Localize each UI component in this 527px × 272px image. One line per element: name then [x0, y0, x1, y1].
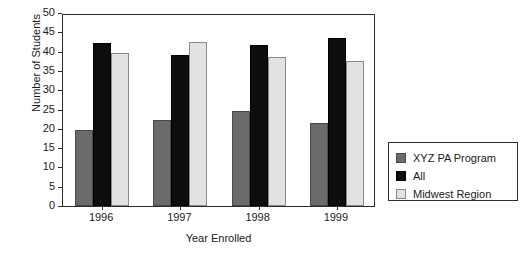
x-tick-mark: [337, 206, 338, 210]
y-tick-mark: [58, 206, 62, 207]
y-tick-label: 40: [43, 45, 55, 57]
y-tick-mark: [58, 148, 62, 149]
y-tick-label: 5: [49, 180, 55, 192]
bar-1996-series-2: [111, 53, 129, 206]
y-tick-label: 30: [43, 83, 55, 95]
bar-1999-series-2: [346, 61, 364, 206]
y-tick-mark: [58, 129, 62, 130]
y-tick-label: 25: [43, 103, 55, 115]
x-axis-title: Year Enrolled: [62, 232, 375, 244]
legend-label-all: All: [413, 170, 425, 182]
x-tick-label: 1999: [306, 211, 366, 223]
chart-legend: XYZ PA Program All Midwest Region: [388, 142, 518, 201]
x-tick-mark: [102, 206, 103, 210]
legend-item-midwest-region: Midwest Region: [396, 185, 517, 202]
y-tick-label: 35: [43, 64, 55, 76]
y-tick-label: 0: [49, 199, 55, 211]
y-tick-mark: [58, 167, 62, 168]
y-tick-mark: [58, 52, 62, 53]
legend-label-xyz-pa-program: XYZ PA Program: [413, 152, 496, 164]
bar-1997-series-1: [171, 55, 189, 206]
y-tick-label: 10: [43, 160, 55, 172]
bar-1996-series-0: [75, 130, 93, 206]
legend-item-all: All: [396, 167, 517, 184]
bar-chart: Number of Students 05101520253035404550 …: [0, 0, 527, 272]
legend-swatch-icon-all: [396, 171, 406, 181]
y-tick-mark: [58, 13, 62, 14]
bar-1998-series-1: [250, 45, 268, 206]
bar-1999-series-1: [328, 38, 346, 206]
plot-inner: [63, 15, 374, 206]
bar-1997-series-2: [189, 42, 207, 206]
y-tick-mark: [58, 90, 62, 91]
y-axis-title: Number of Students: [30, 0, 42, 143]
y-tick-label: 45: [43, 25, 55, 37]
x-tick-label: 1997: [149, 211, 209, 223]
y-tick-label: 15: [43, 141, 55, 153]
y-tick-label: 20: [43, 122, 55, 134]
legend-swatch-icon-midwest-region: [396, 189, 406, 199]
y-tick-mark: [58, 71, 62, 72]
x-tick-mark: [180, 206, 181, 210]
y-tick-mark: [58, 187, 62, 188]
x-tick-label: 1996: [71, 211, 131, 223]
legend-swatch-icon-xyz-pa-program: [396, 153, 406, 163]
bar-1999-series-0: [310, 123, 328, 206]
bar-1998-series-0: [232, 111, 250, 206]
y-tick-mark: [58, 32, 62, 33]
y-tick-label: 50: [43, 6, 55, 18]
plot-area: [62, 14, 375, 207]
bar-1998-series-2: [268, 57, 286, 206]
y-tick-mark: [58, 110, 62, 111]
legend-label-midwest-region: Midwest Region: [413, 188, 491, 200]
x-tick-mark: [259, 206, 260, 210]
bar-1997-series-0: [153, 120, 171, 206]
legend-item-xyz-pa-program: XYZ PA Program: [396, 149, 517, 166]
x-tick-label: 1998: [228, 211, 288, 223]
bar-1996-series-1: [93, 43, 111, 206]
